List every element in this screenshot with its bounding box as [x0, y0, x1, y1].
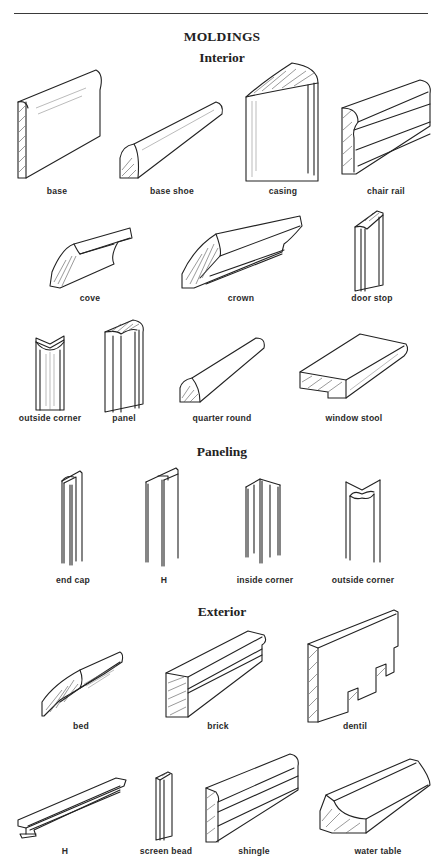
- top-rule: [14, 13, 428, 14]
- door-stop-molding-illustration: [353, 207, 389, 293]
- h-paneling-illustration: [144, 466, 184, 570]
- label-cove: cove: [80, 293, 100, 303]
- label-panel: panel: [112, 413, 135, 423]
- casing-molding-illustration: [244, 61, 322, 183]
- h-exterior-illustration: [16, 776, 128, 840]
- brick-molding-illustration: [164, 629, 268, 719]
- label-h-exterior: H: [62, 846, 68, 856]
- label-chair-rail: chair rail: [367, 186, 405, 196]
- dentil-molding-illustration: [306, 608, 400, 722]
- water-table-molding-illustration: [318, 757, 432, 837]
- label-outside-corner-interior: outside corner: [19, 413, 82, 423]
- label-base-shoe: base shoe: [150, 186, 194, 196]
- base-shoe-molding-illustration: [118, 100, 224, 180]
- base-molding-illustration: [16, 68, 102, 180]
- label-outside-corner-paneling: outside corner: [332, 575, 395, 585]
- label-base: base: [47, 186, 67, 196]
- section-heading-paneling: Paneling: [0, 444, 444, 460]
- shingle-molding-illustration: [204, 752, 300, 844]
- label-inside-corner-paneling: inside corner: [237, 575, 294, 585]
- label-quarter-round: quarter round: [193, 413, 252, 423]
- screen-bead-molding-illustration: [154, 770, 176, 842]
- outside-corner-interior-illustration: [34, 336, 68, 412]
- label-door-stop: door stop: [351, 293, 392, 303]
- label-crown: crown: [228, 293, 254, 303]
- label-water-table: water table: [354, 846, 401, 856]
- label-h-paneling: H: [161, 575, 167, 585]
- label-casing: casing: [269, 186, 297, 196]
- chair-rail-molding-illustration: [340, 78, 432, 178]
- label-end-cap: end cap: [56, 575, 90, 585]
- bed-molding-illustration: [40, 650, 124, 720]
- page-title: MOLDINGS: [0, 29, 444, 45]
- crown-molding-illustration: [180, 214, 304, 292]
- inside-corner-paneling-illustration: [244, 477, 284, 565]
- quarter-round-molding-illustration: [178, 336, 266, 406]
- end-cap-paneling-illustration: [60, 469, 84, 565]
- label-dentil: dentil: [343, 721, 367, 731]
- label-screen-bead: screen bead: [140, 846, 192, 856]
- outside-corner-paneling-illustration: [344, 478, 384, 566]
- panel-molding-illustration: [103, 318, 147, 414]
- window-stool-molding-illustration: [298, 332, 410, 404]
- section-heading-interior: Interior: [0, 50, 444, 66]
- label-window-stool: window stool: [326, 413, 383, 423]
- label-shingle: shingle: [238, 846, 269, 856]
- label-bed: bed: [73, 721, 89, 731]
- cove-molding-illustration: [48, 226, 134, 290]
- label-brick: brick: [207, 721, 229, 731]
